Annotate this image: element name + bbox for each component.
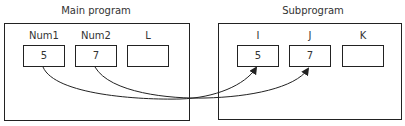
arrow-num2-to-j xyxy=(95,67,308,98)
parameter-links xyxy=(0,0,405,126)
